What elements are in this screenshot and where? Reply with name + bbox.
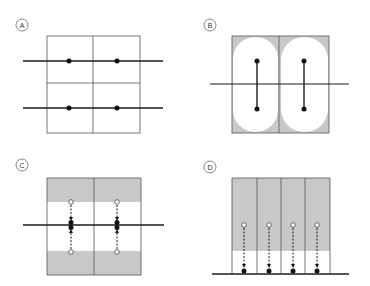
panel-d: D [204,161,349,274]
open-circle [69,200,74,205]
dot [255,59,260,64]
panel-label-b: B [208,22,213,29]
panel-label-a: A [20,22,25,29]
open-circle [291,223,296,228]
open-circle [69,250,74,255]
dot [67,59,72,64]
dot [255,107,260,112]
open-circle [242,223,247,228]
dot [302,107,307,112]
open-circle [115,200,120,205]
dot [115,220,120,225]
dot [115,225,120,230]
open-circle [267,223,272,228]
dot [67,106,72,111]
dot [267,269,272,274]
dot [69,225,74,230]
dot [69,220,74,225]
panel-c: C [16,159,164,275]
dot [302,59,307,64]
open-circle [115,250,120,255]
dot [315,269,320,274]
figure: A B C [0,0,370,286]
open-circle [315,223,320,228]
panel-b-label: B [204,19,216,31]
panel-a: A [16,19,163,133]
grid-box [47,36,140,133]
dot [115,106,120,111]
panel-label-d: D [207,164,212,171]
panel-b: B [204,19,349,133]
panel-c-label: C [16,159,28,171]
dot [115,59,120,64]
dot [242,269,247,274]
panel-d-label: D [204,161,216,173]
dot [291,269,296,274]
panel-a-label: A [16,19,28,31]
panel-label-c: C [19,162,24,169]
